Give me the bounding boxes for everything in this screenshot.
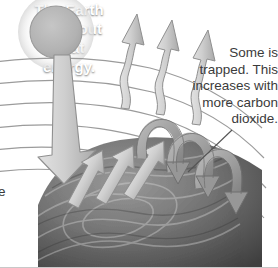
trapped-heat-caption: Some is trapped. This increases with mor… [192, 45, 278, 128]
edge-text-fragment: e [0, 184, 6, 201]
greenhouse-effect-diagram: Some is trapped. This increases with mor… [0, 0, 278, 268]
diagram-artwork [0, 0, 278, 268]
